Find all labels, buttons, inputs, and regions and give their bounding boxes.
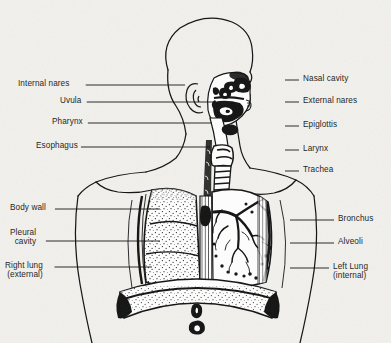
label-pharynx: Pharynx [52, 117, 83, 126]
label-right-lung: Right lung (external) [5, 261, 43, 280]
label-internal-nares: Internal nares [18, 79, 69, 88]
label-bronchus: Bronchus [338, 214, 373, 223]
epiglottis [222, 124, 239, 135]
label-larynx: Larynx [303, 144, 328, 153]
label-left-lung: Left Lung (internal) [333, 262, 368, 281]
larynx [211, 145, 233, 168]
label-pleural-cavity: Pleural cavity [10, 228, 36, 247]
right-lung-external [140, 186, 204, 287]
label-epiglottis: Epiglottis [303, 120, 337, 129]
mediastinum [200, 196, 213, 282]
label-alveoli: Alveoli [338, 237, 363, 246]
umbilicus [189, 304, 205, 335]
left-lung-internal [212, 190, 278, 287]
ear [186, 84, 203, 113]
label-external-nares: External nares [303, 96, 357, 105]
label-trachea: Trachea [303, 165, 333, 174]
label-body-wall: Body wall [10, 203, 46, 212]
label-uvula: Uvula [60, 96, 81, 105]
label-nasal-cavity: Nasal cavity [303, 74, 348, 83]
label-esophagus: Esophagus [36, 141, 78, 150]
